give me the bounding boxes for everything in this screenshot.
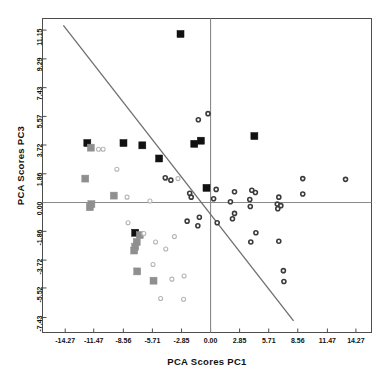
plot-frame bbox=[43, 19, 372, 333]
data-point bbox=[125, 195, 129, 199]
data-point bbox=[172, 235, 176, 239]
data-point bbox=[177, 30, 184, 37]
data-point bbox=[301, 177, 305, 181]
data-point bbox=[254, 231, 258, 235]
data-point bbox=[150, 277, 157, 284]
data-point bbox=[248, 197, 252, 201]
data-point bbox=[282, 279, 286, 283]
data-point bbox=[214, 187, 218, 191]
plot-canvas bbox=[0, 0, 391, 374]
data-point bbox=[230, 217, 234, 221]
data-point bbox=[110, 192, 117, 199]
data-point bbox=[344, 177, 348, 181]
series-open-light-circles bbox=[97, 147, 187, 301]
data-point bbox=[134, 268, 141, 275]
data-point bbox=[82, 175, 89, 182]
data-point bbox=[249, 240, 253, 244]
pca-scores-scatter-figure: PCA Scores PC3 PCA Scores PC1 -14.27-11.… bbox=[0, 0, 391, 374]
data-point bbox=[86, 204, 93, 211]
y-tick-label: -7.43 bbox=[35, 316, 42, 354]
data-point bbox=[191, 140, 198, 147]
data-point bbox=[233, 190, 237, 194]
data-point bbox=[169, 178, 173, 182]
data-point bbox=[163, 176, 167, 180]
data-point bbox=[253, 191, 257, 195]
data-point bbox=[277, 195, 281, 199]
data-point bbox=[120, 140, 127, 147]
data-point bbox=[182, 297, 186, 301]
data-point bbox=[154, 240, 158, 244]
data-point bbox=[97, 147, 101, 151]
x-axis-title: PCA Scores PC1 bbox=[42, 356, 372, 367]
data-point bbox=[159, 296, 163, 300]
data-point bbox=[251, 133, 258, 140]
data-point bbox=[197, 137, 204, 144]
data-point bbox=[151, 262, 155, 266]
data-point bbox=[206, 112, 210, 116]
data-point bbox=[164, 247, 168, 251]
y-axis-title: PCA Scores PC3 bbox=[15, 116, 26, 216]
data-point bbox=[126, 221, 130, 225]
data-point bbox=[189, 195, 193, 199]
data-point bbox=[196, 118, 200, 122]
data-point bbox=[196, 224, 200, 228]
data-point bbox=[139, 142, 146, 149]
plot-frame-border bbox=[43, 19, 372, 333]
data-point bbox=[142, 232, 146, 236]
data-point bbox=[115, 167, 119, 171]
data-point bbox=[277, 239, 281, 243]
y-axis-ticks bbox=[43, 30, 47, 317]
data-point bbox=[233, 211, 237, 215]
x-tick-label: 14.27 bbox=[334, 337, 378, 344]
data-point bbox=[156, 155, 163, 162]
data-point bbox=[170, 277, 174, 281]
data-point bbox=[131, 247, 138, 254]
data-point bbox=[301, 192, 305, 196]
series-gray-squares bbox=[82, 144, 157, 284]
data-point bbox=[212, 197, 216, 201]
data-point bbox=[248, 204, 252, 208]
discriminant-line bbox=[63, 25, 293, 320]
data-point bbox=[176, 177, 180, 181]
data-point bbox=[215, 221, 219, 225]
series-black-squares bbox=[84, 30, 258, 236]
data-point bbox=[148, 199, 152, 203]
data-markers bbox=[82, 30, 348, 301]
data-point bbox=[203, 184, 210, 191]
data-point bbox=[281, 269, 285, 273]
reference-lines bbox=[43, 19, 372, 333]
data-point bbox=[185, 219, 189, 223]
data-point bbox=[182, 274, 186, 278]
data-point bbox=[228, 200, 232, 204]
data-point bbox=[101, 147, 105, 151]
data-point bbox=[197, 215, 201, 219]
data-point bbox=[87, 144, 94, 151]
data-point bbox=[276, 207, 280, 211]
